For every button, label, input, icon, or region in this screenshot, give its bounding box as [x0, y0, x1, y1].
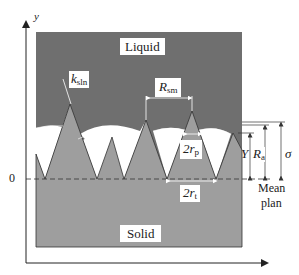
r-sm-sub: sm — [167, 85, 178, 95]
mean-plane-label-line1: Mean — [258, 182, 285, 194]
two-r-t-main: 2r — [183, 185, 195, 200]
ra-label: Ra — [253, 147, 265, 162]
two-r-t-label: 2rt — [180, 185, 200, 202]
two-r-p-sub: p — [195, 147, 200, 157]
solid-label: Solid — [120, 225, 161, 242]
two-r-p-label: 2rp — [180, 140, 202, 159]
y-axis-label: y — [34, 11, 39, 22]
r-sm-main: R — [159, 79, 167, 94]
liquid-label: Liquid — [120, 38, 165, 55]
ra-sub: a — [261, 152, 265, 162]
y-height-label: Y — [241, 147, 248, 160]
origin-label: 0 — [9, 172, 15, 184]
two-r-t-sub: t — [195, 191, 198, 201]
two-r-p-main: 2r — [183, 141, 195, 156]
mean-plane-label-line2: plan — [261, 197, 282, 209]
r-sm-label: Rsm — [155, 78, 181, 97]
k-sln-label: ksln — [69, 71, 89, 88]
ra-main: R — [253, 146, 261, 161]
k-sln-sub: sln — [77, 77, 88, 87]
sigma-label: σ — [285, 147, 291, 160]
